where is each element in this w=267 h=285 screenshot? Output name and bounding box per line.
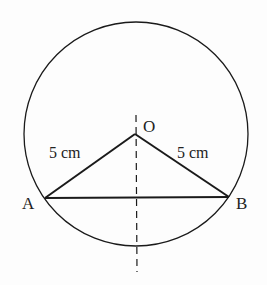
length-label-OA: 5 cm [49, 144, 81, 161]
diagram-svg: O A B 5 cm 5 cm [0, 0, 267, 285]
circle-chord-diagram: O A B 5 cm 5 cm [0, 0, 267, 285]
point-label-B: B [236, 194, 247, 213]
length-label-OB: 5 cm [177, 144, 209, 161]
point-label-A: A [22, 194, 35, 213]
perpendicular-bisector [136, 115, 137, 272]
point-label-O: O [143, 117, 155, 136]
chord-AB [45, 197, 229, 198]
